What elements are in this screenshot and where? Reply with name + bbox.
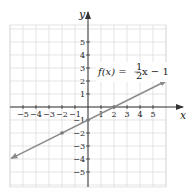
y-tick-label: 5 [80, 38, 85, 47]
formula-suffix: x − 1 [142, 66, 169, 77]
y-tick-label: 1 [80, 90, 85, 99]
x-tick-label: 2 [111, 110, 116, 119]
function-label: f(x) = 1 2 x − 1 [96, 61, 169, 82]
marked-point [86, 118, 90, 122]
x-tick-label: 4 [137, 110, 142, 119]
y-tick-label: −2 [73, 129, 85, 138]
svg-text:x − 1: x − 1 [142, 66, 169, 77]
x-tick-label: −5 [17, 110, 29, 119]
formula-prefix: f(x) = [97, 66, 127, 77]
x-tick-label: −2 [56, 110, 68, 119]
x-tick-label: −3 [43, 110, 55, 119]
marked-point [60, 131, 64, 135]
x-tick-label: 5 [150, 110, 155, 119]
y-tick-label: −5 [73, 168, 85, 177]
x-tick-labels: −5−4−3−2−112345 [17, 110, 155, 119]
function-graph: −5−4−3−2−112345 54321−1−2−3−4−5 x y f(x)… [0, 0, 195, 193]
x-tick-label: −4 [30, 110, 42, 119]
y-tick-label: −4 [73, 155, 85, 164]
y-tick-label: 4 [80, 51, 85, 60]
y-tick-label: 3 [80, 64, 85, 73]
x-tick-label: 3 [124, 110, 129, 119]
marked-point [112, 105, 116, 109]
y-tick-label: 2 [80, 77, 85, 86]
y-axis-label: y [78, 8, 86, 21]
x-axis-label: x [180, 109, 187, 122]
svg-text:f(x) =: f(x) = [97, 66, 127, 77]
y-tick-label: −3 [73, 142, 85, 151]
